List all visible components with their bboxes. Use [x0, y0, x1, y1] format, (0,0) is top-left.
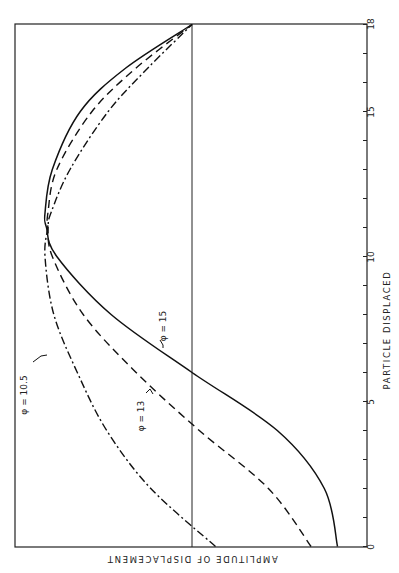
tick-label-5: 5	[366, 399, 376, 405]
tick-label-0: 0	[366, 544, 376, 550]
pointer-arrow-icon	[146, 389, 153, 394]
tick-label-10: 10	[366, 251, 376, 263]
curve-phi-15	[45, 25, 338, 547]
tick-label-18: 18	[366, 18, 376, 30]
annotation-phi-10-5: φ = 10.5	[19, 355, 47, 415]
pointer-arrow-icon	[33, 355, 47, 362]
tick-label-15: 15	[366, 106, 376, 117]
y-axis-label: AMPLITUDE OF DISPLACEMENT	[106, 554, 278, 564]
annotation-phi-13: φ = 13	[136, 389, 153, 431]
chart: 0 5 10 15 18 PARTICLE DISPLACED AMPLITUD…	[0, 0, 399, 573]
svg-text:φ = 15: φ = 15	[158, 311, 168, 342]
annotation-phi-15: φ = 15	[158, 311, 168, 348]
svg-text:φ = 10.5: φ = 10.5	[19, 375, 29, 414]
curve-phi-10-5	[45, 25, 216, 547]
plot-frame	[15, 24, 367, 547]
svg-text:φ = 13: φ = 13	[136, 401, 146, 432]
x-axis-label: PARTICLE DISPLACED	[382, 271, 392, 390]
